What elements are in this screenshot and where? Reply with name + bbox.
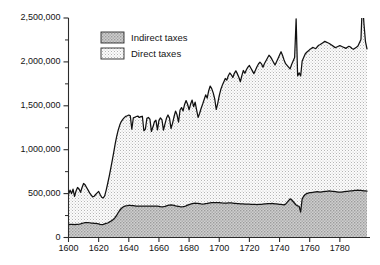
y-tick-label: 2,500,000 xyxy=(20,12,60,22)
x-tick-label: 1720 xyxy=(239,243,259,253)
x-tick-label: 1600 xyxy=(58,243,78,253)
y-tick-label: 2,000,000 xyxy=(20,56,60,66)
legend-label-direct-taxes: Direct taxes xyxy=(131,48,181,59)
legend-swatch-indirect-taxes xyxy=(101,32,124,43)
x-tick-label: 1620 xyxy=(89,243,109,253)
y-tick-label: 500,000 xyxy=(28,188,61,198)
x-tick-label: 1660 xyxy=(149,243,169,253)
x-tick-label: 1740 xyxy=(270,243,290,253)
y-tick-label: 1,000,000 xyxy=(20,144,60,154)
x-tick-label: 1680 xyxy=(179,243,199,253)
y-tick-label: 0 xyxy=(55,232,60,242)
x-tick-label: 1760 xyxy=(300,243,320,253)
tax-revenue-area-chart: 0500,0001,000,0001,500,0002,000,0002,500… xyxy=(0,0,380,265)
x-tick-label: 1700 xyxy=(209,243,229,253)
chart-container: 0500,0001,000,0001,500,0002,000,0002,500… xyxy=(0,0,380,265)
x-tick-label: 1640 xyxy=(119,243,139,253)
x-tick-label: 1780 xyxy=(330,243,350,253)
legend-label-indirect-taxes: Indirect taxes xyxy=(131,32,188,43)
y-tick-label: 1,500,000 xyxy=(20,100,60,110)
legend-swatch-direct-taxes xyxy=(101,48,124,59)
